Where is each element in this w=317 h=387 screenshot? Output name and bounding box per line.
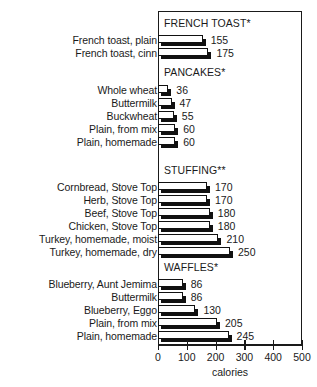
bar-value-label: 60 bbox=[183, 123, 195, 136]
section-heading-french-toast: FRENCH TOAST* bbox=[164, 17, 251, 30]
chart-row: Blueberry, Eggo 130 bbox=[0, 304, 317, 318]
bar-face bbox=[158, 111, 174, 119]
x-axis-tick bbox=[187, 345, 188, 350]
calories-bar-chart: FRENCH TOAST* PANCAKES* STUFFING** WAFFL… bbox=[0, 0, 317, 387]
bar-value-label: 86 bbox=[191, 291, 203, 304]
x-axis-tick-inner bbox=[216, 340, 217, 345]
x-axis-tick bbox=[273, 345, 274, 350]
row-label: Plain, homemade bbox=[0, 136, 157, 149]
bar-value-label: 180 bbox=[218, 207, 236, 220]
bar-value-label: 130 bbox=[203, 304, 221, 317]
row-label: French toast, plain bbox=[0, 34, 157, 47]
bar-value-label: 170 bbox=[215, 194, 233, 207]
bar-face bbox=[158, 48, 208, 56]
row-label: Chicken, Stove Top bbox=[0, 220, 157, 233]
chart-row: Buttermilk 86 bbox=[0, 291, 317, 305]
row-label: Blueberry, Aunt Jemima bbox=[0, 278, 157, 291]
row-label: Beef, Stove Top bbox=[0, 207, 157, 220]
bar-value-label: 170 bbox=[215, 181, 233, 194]
bar-face bbox=[158, 234, 218, 242]
row-label: Cornbread, Stove Top bbox=[0, 181, 157, 194]
chart-row: Chicken, Stove Top 180 bbox=[0, 220, 317, 234]
row-label: Blueberry, Eggo bbox=[0, 304, 157, 317]
bar-value-label: 175 bbox=[216, 47, 234, 60]
bar-face bbox=[158, 98, 172, 106]
x-axis-tick bbox=[158, 345, 159, 350]
bar-value-label: 55 bbox=[182, 110, 194, 123]
x-axis-tick-inner bbox=[187, 340, 188, 345]
chart-row: Buckwheat 55 bbox=[0, 110, 317, 124]
chart-row: Plain, from mix 60 bbox=[0, 123, 317, 137]
bar-face bbox=[158, 279, 183, 287]
bar-face bbox=[158, 305, 195, 313]
bar-face bbox=[158, 208, 210, 216]
x-axis-tick-inner bbox=[273, 340, 274, 345]
chart-row: Whole wheat 36 bbox=[0, 84, 317, 98]
section-heading-stuffing: STUFFING** bbox=[164, 164, 226, 177]
chart-row: French toast, plain 155 bbox=[0, 34, 317, 48]
x-axis-tick-label: 500 bbox=[282, 351, 317, 364]
bar-value-label: 205 bbox=[225, 317, 243, 330]
x-axis-line bbox=[158, 345, 302, 346]
bar-face bbox=[158, 137, 175, 145]
x-axis-tick bbox=[216, 345, 217, 350]
row-label: Plain, from mix bbox=[0, 317, 157, 330]
bar-value-label: 155 bbox=[211, 34, 229, 47]
row-label: Turkey, homemade, moist bbox=[0, 233, 157, 246]
chart-row: French toast, cinn 175 bbox=[0, 47, 317, 61]
x-axis-tick-inner bbox=[244, 340, 245, 345]
chart-row: Buttermilk 47 bbox=[0, 97, 317, 111]
row-label: Herb, Stove Top bbox=[0, 194, 157, 207]
x-axis-tick-inner bbox=[158, 340, 159, 345]
x-axis-title: calories bbox=[158, 366, 302, 379]
bar-value-label: 250 bbox=[238, 246, 256, 259]
bar-face bbox=[158, 318, 217, 326]
chart-row: Plain, from mix 205 bbox=[0, 317, 317, 331]
bar-value-label: 86 bbox=[191, 278, 203, 291]
bar-face bbox=[158, 247, 230, 255]
bar-value-label: 60 bbox=[183, 136, 195, 149]
bar-face bbox=[158, 195, 207, 203]
section-heading-pancakes: PANCAKES* bbox=[164, 66, 225, 79]
bar-face bbox=[158, 35, 203, 43]
chart-row: Turkey, homemade, moist 210 bbox=[0, 233, 317, 247]
bar-face bbox=[158, 292, 183, 300]
section-heading-waffles: WAFFLES* bbox=[164, 261, 218, 274]
x-axis-tick-inner bbox=[302, 340, 303, 345]
x-axis-tick bbox=[302, 345, 303, 350]
row-label: French toast, cinn bbox=[0, 47, 157, 60]
bar-face bbox=[158, 182, 207, 190]
chart-row: Plain, homemade 60 bbox=[0, 136, 317, 150]
chart-row: Herb, Stove Top 170 bbox=[0, 194, 317, 208]
bar-face bbox=[158, 124, 175, 132]
chart-row: Turkey, homemade, dry 250 bbox=[0, 246, 317, 260]
chart-row: Blueberry, Aunt Jemima 86 bbox=[0, 278, 317, 292]
bar-value-label: 180 bbox=[218, 220, 236, 233]
bar-face bbox=[158, 221, 210, 229]
chart-row: Beef, Stove Top 180 bbox=[0, 207, 317, 221]
x-axis-tick bbox=[244, 345, 245, 350]
row-label: Plain, homemade bbox=[0, 330, 157, 343]
bar-value-label: 210 bbox=[226, 233, 244, 246]
row-label: Plain, from mix bbox=[0, 123, 157, 136]
row-label: Whole wheat bbox=[0, 84, 157, 97]
row-label: Buckwheat bbox=[0, 110, 157, 123]
row-label: Buttermilk bbox=[0, 97, 157, 110]
chart-row: Cornbread, Stove Top 170 bbox=[0, 181, 317, 195]
bar-value-label: 47 bbox=[180, 97, 192, 110]
bar-value-label: 36 bbox=[176, 84, 188, 97]
row-label: Buttermilk bbox=[0, 291, 157, 304]
bar-face bbox=[158, 85, 168, 93]
bar-face bbox=[158, 331, 229, 339]
row-label: Turkey, homemade, dry bbox=[0, 246, 157, 259]
